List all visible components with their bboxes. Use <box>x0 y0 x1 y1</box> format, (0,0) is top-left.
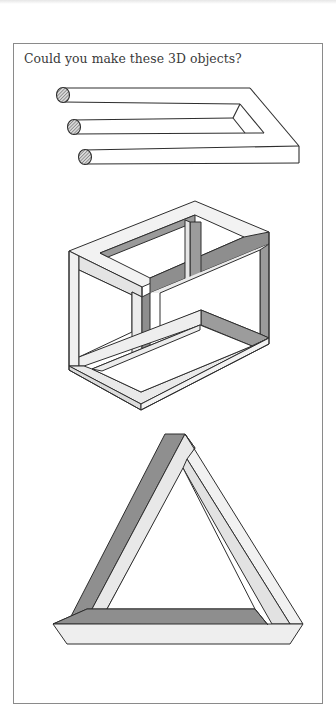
impossible-cube-figure <box>69 201 269 410</box>
cylinder-end-icon <box>57 88 70 103</box>
illustrations <box>0 0 336 725</box>
penrose-triangle-figure <box>53 434 303 644</box>
cylinder-end-icon <box>68 120 81 135</box>
cylinder-end-icon <box>79 150 92 165</box>
impossible-trident-figure <box>57 88 300 165</box>
